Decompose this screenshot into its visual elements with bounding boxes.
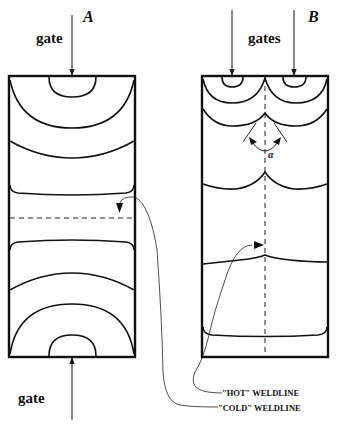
flow-front-a-top-3 — [10, 141, 134, 158]
gates-label: gates — [248, 30, 281, 46]
panel-b-label: B — [307, 8, 319, 25]
panel-a: A gate gate — [9, 8, 135, 420]
flow-front-b-1-right — [283, 77, 306, 87]
flow-front-a-top-1 — [49, 77, 96, 97]
hot-weldline-label: "HOT" WELDLINE — [222, 388, 299, 398]
bottom-gate-label: gate — [18, 390, 45, 406]
flow-front-b-1-left — [222, 77, 243, 87]
panel-a-label: A — [82, 8, 94, 25]
flow-front-a-bottom-1 — [49, 335, 96, 356]
mold-cavity-a — [9, 76, 135, 357]
cold-weldline-label: "COLD" WELDLINE — [218, 403, 301, 413]
flow-front-a-bottom-3 — [10, 273, 134, 290]
alpha-arrow-right — [273, 137, 281, 145]
alpha-arrow-left — [249, 137, 257, 145]
top-gate-label: gate — [36, 30, 63, 46]
alpha-label: α — [268, 149, 274, 160]
flow-front-a-bottom-2 — [10, 304, 134, 354]
hot-weldline-leader-top — [225, 245, 252, 280]
hot-weldline-leader — [193, 280, 225, 393]
cold-weldline-arrowhead — [116, 203, 123, 213]
hot-weldline-arrowhead — [254, 241, 264, 249]
weldline-diagram: A gate gate B gates — [0, 0, 339, 424]
annotations: "HOT" WELDLINE "COLD" WELDLINE — [116, 197, 301, 413]
flow-front-a-top-4 — [10, 185, 134, 195]
alpha-tangent-left — [243, 123, 256, 142]
flow-front-a-bottom-4 — [10, 240, 134, 250]
panel-b: B gates α — [202, 8, 328, 357]
flow-front-a-top-2 — [10, 80, 134, 128]
